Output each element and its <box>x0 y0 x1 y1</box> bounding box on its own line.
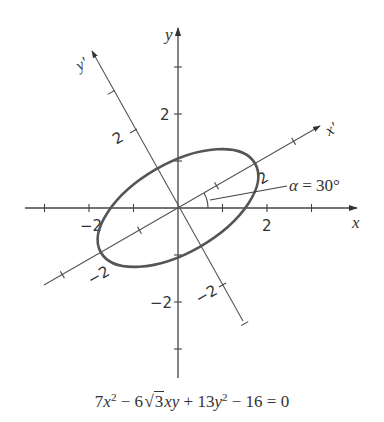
eq-term-minus-6: − 6 <box>116 392 143 411</box>
x-axis-label: x <box>351 213 360 232</box>
eq-term-plus-13: + 13 <box>179 392 214 411</box>
y-prime-axis-label: y' <box>71 54 91 76</box>
eq-sqrt: √3 <box>144 392 164 412</box>
x-prime-axis-label: x' <box>321 119 340 140</box>
angle-arc <box>204 193 208 208</box>
eq-var-y: y <box>214 392 222 411</box>
eq-var-x: x <box>103 392 111 411</box>
y-axis: 2 −2 y <box>150 25 182 378</box>
y-prime-tick-label-2: 2 <box>109 128 126 148</box>
ellipse-equation: 7x2 − 6 √3xy + 13y2 − 16 = 0 <box>0 392 384 412</box>
eq-radicand: 3 <box>154 391 165 411</box>
y-axis-label: y <box>163 25 173 44</box>
y-tick-label-2: 2 <box>160 106 170 124</box>
x-prime-tick-label-neg2: −2 <box>85 262 113 289</box>
angle-leader-line <box>210 186 287 200</box>
x-prime-axis: 2 −2 x' <box>44 119 340 289</box>
y-prime-tick-label-neg2: −2 <box>192 281 220 308</box>
rotated-ellipse-diagram: −2 2 x 2 −2 y 2 −2 x' <box>0 0 384 422</box>
angle-label: α = 30° <box>289 176 340 195</box>
x-tick-label-2: 2 <box>262 217 272 235</box>
eq-term-minus-16: − 16 = 0 <box>227 392 289 411</box>
y-tick-label-neg2: −2 <box>150 294 172 312</box>
eq-var-xy: xy <box>164 392 179 411</box>
